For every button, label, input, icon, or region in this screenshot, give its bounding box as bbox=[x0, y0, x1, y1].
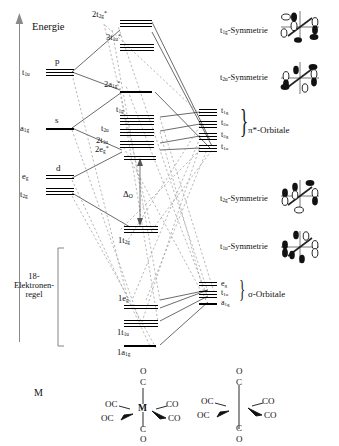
structure-right-C-top: C bbox=[236, 378, 242, 387]
structure-right-OC-up: OC bbox=[201, 397, 214, 406]
structure-right-OC-down: OC bbox=[197, 411, 210, 420]
structure-mco6-right-bonds bbox=[0, 0, 339, 446]
structure-right-C-bottom: C bbox=[236, 424, 242, 433]
structure-right-CO-down: CO bbox=[264, 411, 277, 420]
structure-right-O-bottom: O bbox=[236, 435, 243, 444]
structure-right-CO-up: CO bbox=[262, 397, 275, 406]
structure-right-O-top: O bbox=[236, 367, 243, 376]
mo-diagram-figure: Energie t1u p a1g s eg d t2g 2t2g* bbox=[0, 0, 339, 446]
